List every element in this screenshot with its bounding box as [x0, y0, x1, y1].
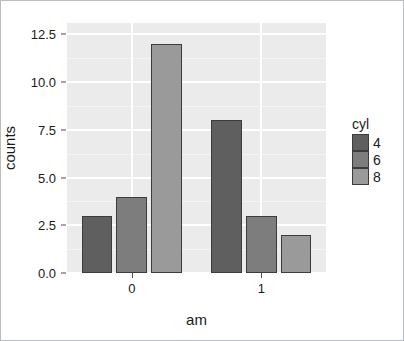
legend-item-4: 4 — [352, 134, 381, 151]
legend-title: cyl — [352, 117, 381, 132]
y-tick-label: 2.5 — [16, 218, 56, 233]
y-tick-mark — [61, 82, 66, 83]
legend-label-6: 6 — [373, 153, 381, 167]
bar-1-6 — [246, 216, 277, 273]
legend-item-6: 6 — [352, 151, 381, 168]
legend-swatch-6 — [352, 151, 369, 168]
legend-label-4: 4 — [373, 136, 381, 150]
plot-panel — [67, 23, 326, 273]
bar-0-8 — [151, 44, 182, 273]
legend-swatch-4 — [352, 134, 369, 151]
legend-items: 468 — [352, 134, 381, 185]
legend: cyl 468 — [352, 117, 381, 185]
y-tick-label: 10.0 — [16, 75, 56, 90]
chart-figure: 0.02.55.07.510.012.5 counts 01 am cyl 46… — [0, 0, 404, 341]
x-tick-mark — [261, 273, 262, 278]
y-tick-label: 7.5 — [16, 122, 56, 137]
x-tick-mark — [132, 273, 133, 278]
y-tick-label: 0.0 — [16, 266, 56, 281]
x-tick-label: 0 — [128, 281, 135, 296]
x-axis-title: am — [67, 311, 326, 328]
legend-label-8: 8 — [373, 170, 381, 184]
bar-0-4 — [82, 216, 113, 273]
bar-1-8 — [281, 235, 312, 273]
y-tick-mark — [61, 273, 66, 274]
y-tick-mark — [61, 129, 66, 130]
y-tick-label: 5.0 — [16, 170, 56, 185]
y-axis-title: counts — [1, 126, 18, 170]
y-tick-mark — [61, 225, 66, 226]
legend-item-8: 8 — [352, 168, 381, 185]
y-tick-label: 12.5 — [16, 27, 56, 42]
bar-0-6 — [116, 197, 147, 273]
x-tick-label: 1 — [258, 281, 265, 296]
bar-series-group — [67, 23, 326, 273]
y-tick-mark — [61, 177, 66, 178]
y-tick-mark — [61, 34, 66, 35]
legend-swatch-8 — [352, 168, 369, 185]
bar-1-4 — [211, 120, 242, 273]
